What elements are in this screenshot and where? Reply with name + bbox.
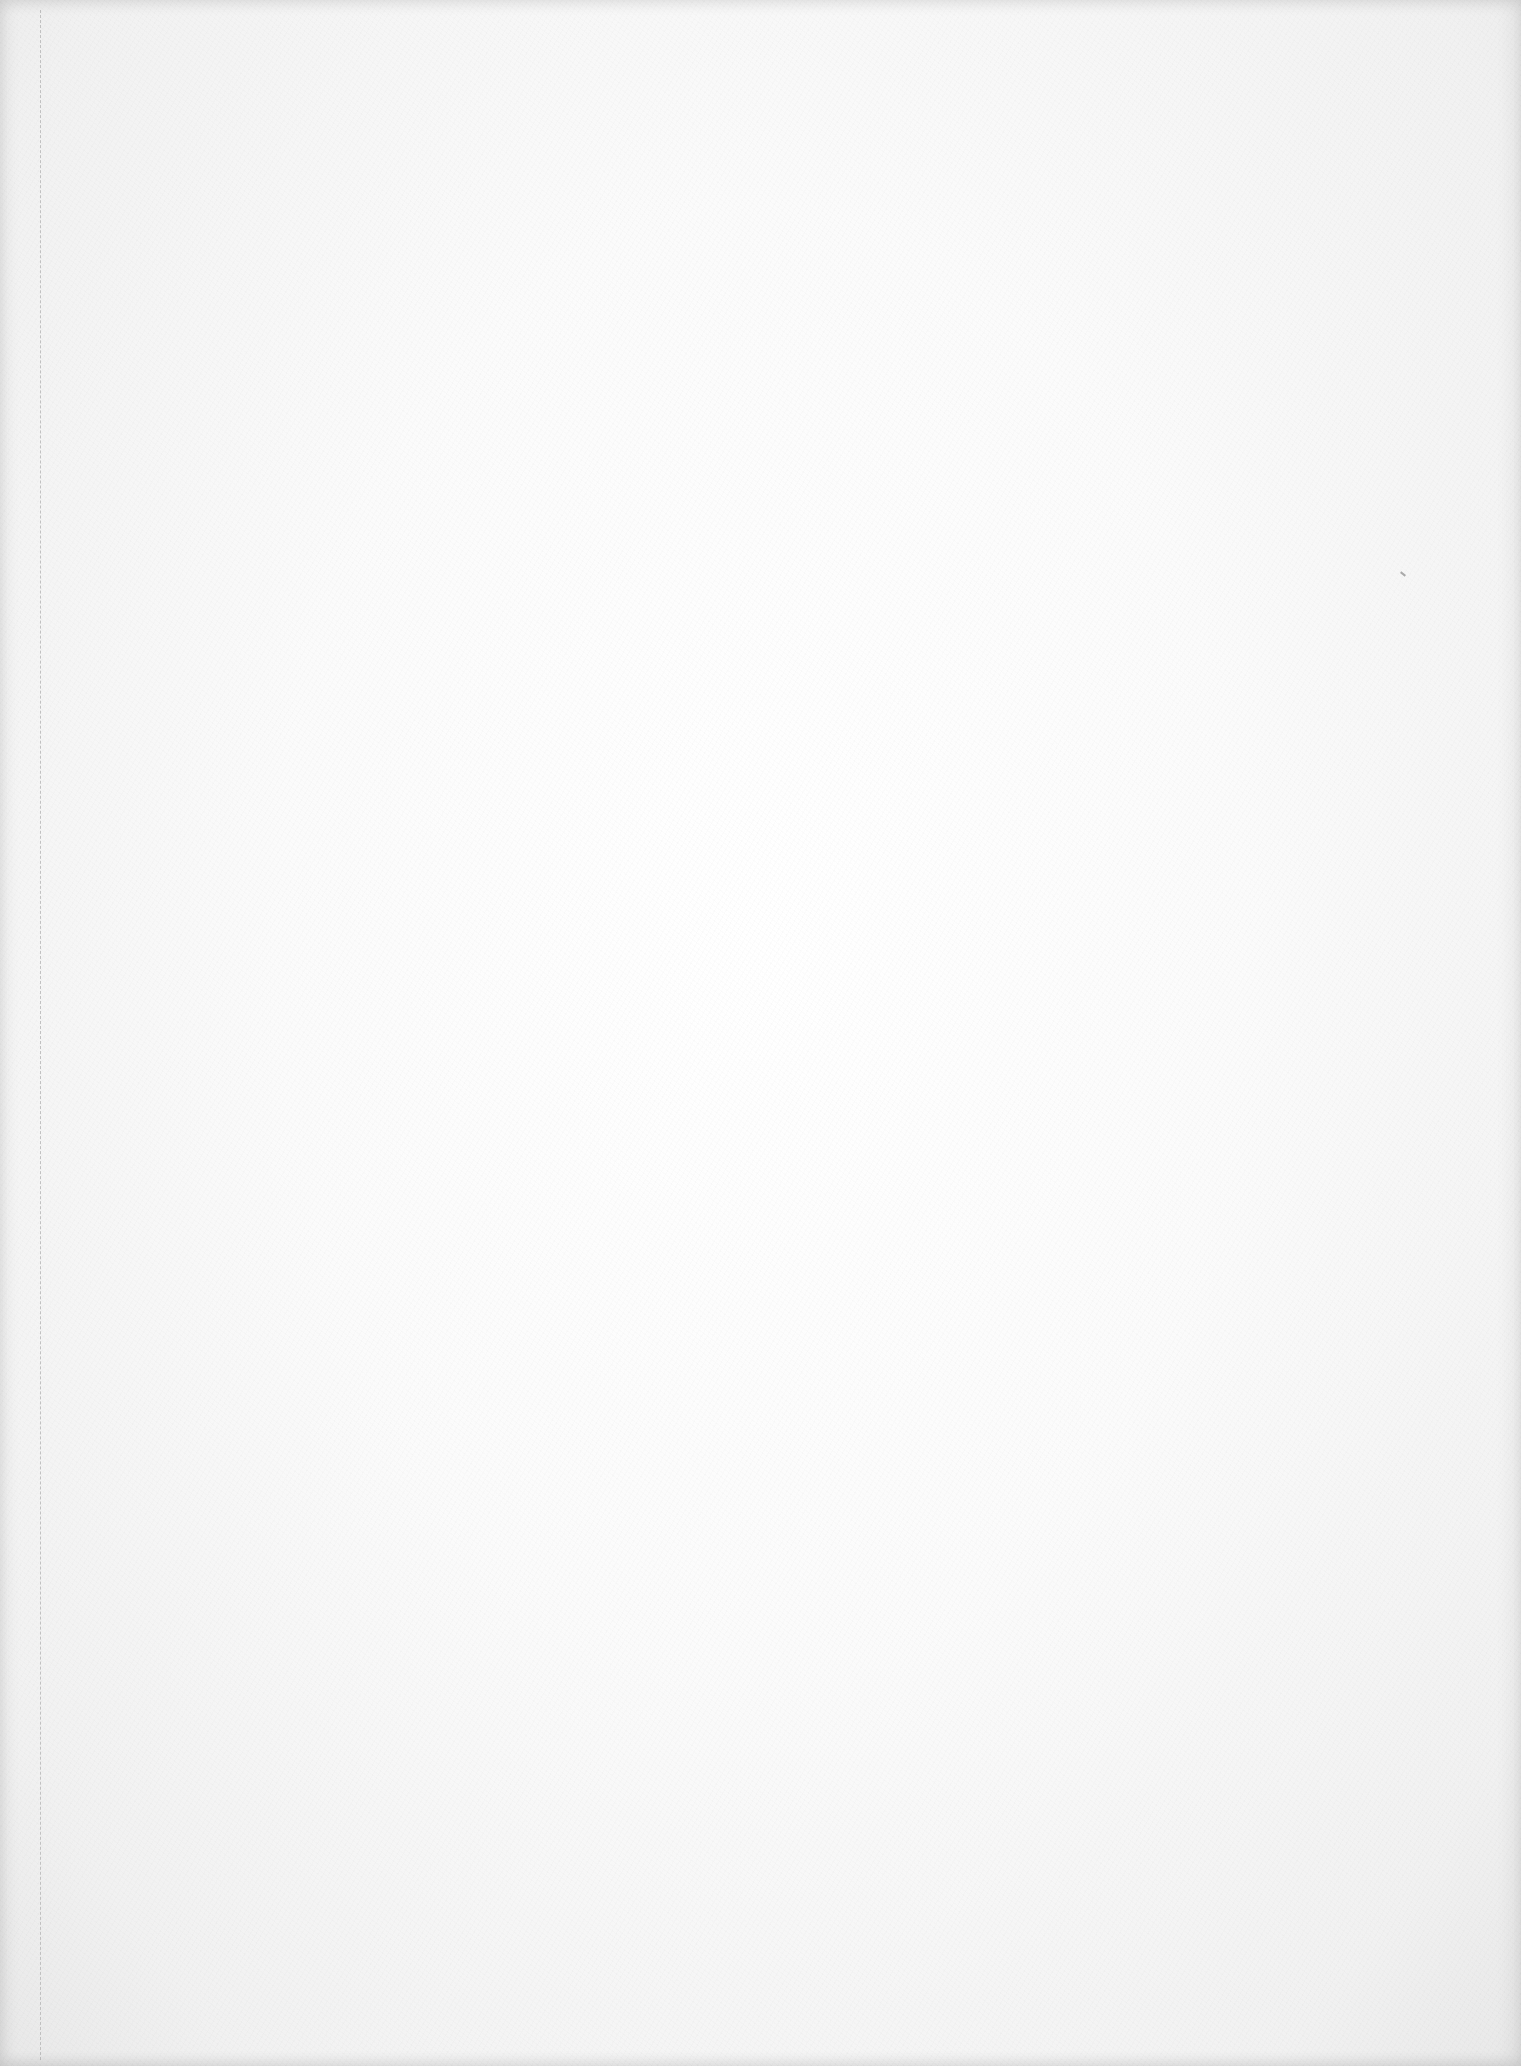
dust-speck — [1400, 571, 1406, 576]
blank-scanned-page — [0, 0, 1521, 2066]
dashed-margin-line — [40, 10, 41, 2060]
page-text — [0, 0, 1, 1]
